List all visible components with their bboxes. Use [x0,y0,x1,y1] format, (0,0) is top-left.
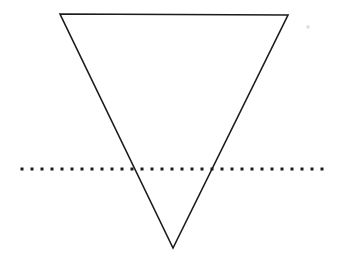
dotted-line-dot [171,168,174,171]
dotted-line-dot [221,168,224,171]
dotted-line-dot [251,168,254,171]
dotted-line-dot [81,168,84,171]
dotted-line-dot [231,168,234,171]
dotted-line-dot [21,168,24,171]
dotted-line-dot [101,168,104,171]
dotted-line-dot [121,168,124,171]
dotted-line-dot [31,168,34,171]
scan-artifact-group [307,26,310,29]
dotted-line-group [21,168,324,171]
dotted-line-dot [281,168,284,171]
dotted-line-dot [41,168,44,171]
dotted-line-dot [91,168,94,171]
figure-canvas [0,0,341,267]
dotted-line-dot [61,168,64,171]
dotted-line-dot [291,168,294,171]
dotted-line-dot [131,168,134,171]
inverted-triangle-shape [60,14,288,248]
dotted-line-dot [311,168,314,171]
dotted-line-dot [321,168,324,171]
dotted-line-dot [201,168,204,171]
dotted-line-dot [181,168,184,171]
dotted-line-dot [151,168,154,171]
dotted-line-dot [301,168,304,171]
dotted-line-dot [191,168,194,171]
dotted-line-dot [261,168,264,171]
diagram-svg [0,0,341,267]
dotted-line-dot [71,168,74,171]
dotted-line-dot [111,168,114,171]
dotted-line-dot [141,168,144,171]
scan-speck-mark [307,26,310,29]
dotted-line-dot [271,168,274,171]
dotted-line-dot [51,168,54,171]
dotted-line-dot [241,168,244,171]
dotted-line-dot [161,168,164,171]
